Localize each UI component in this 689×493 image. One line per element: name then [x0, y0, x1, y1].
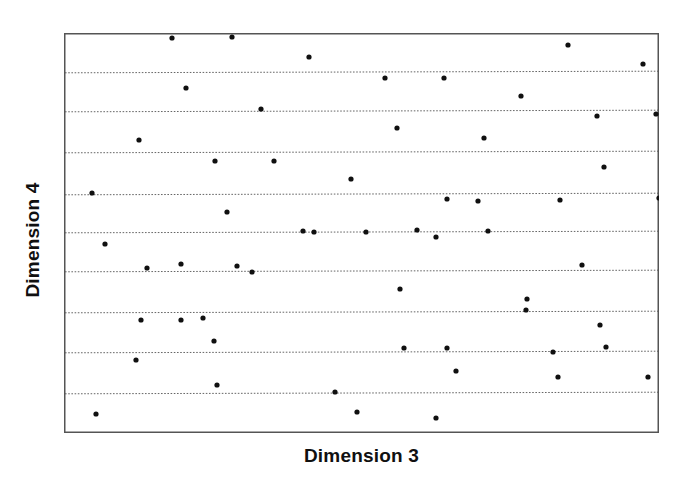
data-point	[133, 357, 138, 362]
gridline	[65, 193, 658, 195]
data-point	[397, 286, 402, 291]
data-point	[401, 345, 406, 350]
data-point	[211, 338, 216, 343]
data-point	[224, 209, 229, 214]
data-point	[518, 93, 523, 98]
data-point	[444, 345, 449, 350]
data-point	[555, 374, 560, 379]
data-point	[453, 368, 458, 373]
data-point	[348, 176, 353, 181]
data-point	[183, 85, 188, 90]
gridline	[65, 151, 658, 153]
data-point	[485, 228, 490, 233]
data-point	[300, 228, 305, 233]
plot-area	[64, 33, 659, 433]
data-point	[594, 113, 599, 118]
x-axis-label: Dimension 3	[64, 445, 659, 467]
gridline	[65, 311, 658, 313]
data-point	[640, 61, 645, 66]
data-point	[214, 382, 219, 387]
plot-frame	[65, 34, 659, 433]
data-point	[433, 234, 438, 239]
data-point	[645, 374, 650, 379]
data-point	[306, 54, 311, 59]
gridline	[65, 270, 658, 272]
data-point	[444, 196, 449, 201]
data-point	[258, 106, 263, 111]
data-point	[212, 158, 217, 163]
data-point	[178, 261, 183, 266]
data-point	[363, 229, 368, 234]
data-point	[550, 349, 555, 354]
gridline	[65, 392, 658, 394]
data-point	[354, 409, 359, 414]
data-point	[603, 344, 608, 349]
gridline	[65, 71, 658, 73]
data-point	[414, 227, 419, 232]
data-point	[200, 315, 205, 320]
data-points-group	[89, 34, 659, 420]
data-point	[93, 411, 98, 416]
y-axis-label: Dimension 4	[22, 182, 44, 297]
gridline	[65, 110, 658, 112]
y-axis-label-container: Dimension 4	[18, 140, 48, 340]
data-point	[89, 190, 94, 195]
plot-frame-rect	[65, 34, 659, 433]
data-point	[653, 111, 658, 116]
data-point	[136, 137, 141, 142]
gridline	[65, 231, 658, 233]
data-point	[524, 296, 529, 301]
data-point	[102, 241, 107, 246]
data-point	[523, 307, 528, 312]
data-point	[579, 262, 584, 267]
scatter-plot-figure: Dimension 4 Dimension 3	[0, 0, 689, 493]
data-point	[597, 322, 602, 327]
data-point	[557, 197, 562, 202]
gridline	[65, 351, 658, 353]
data-point	[481, 135, 486, 140]
data-point	[565, 42, 570, 47]
data-point	[271, 158, 276, 163]
data-point	[441, 75, 446, 80]
data-point	[382, 75, 387, 80]
gridlines-group	[65, 71, 658, 394]
data-point	[229, 34, 234, 39]
data-point	[249, 269, 254, 274]
data-point	[311, 229, 316, 234]
data-point	[433, 415, 438, 420]
data-point	[394, 125, 399, 130]
plot-canvas	[64, 33, 659, 433]
data-point	[234, 263, 239, 268]
data-point	[144, 265, 149, 270]
data-point	[169, 35, 174, 40]
data-point	[656, 195, 659, 200]
data-point	[475, 198, 480, 203]
data-point	[332, 389, 337, 394]
data-point	[601, 164, 606, 169]
data-point	[138, 317, 143, 322]
data-point	[178, 317, 183, 322]
